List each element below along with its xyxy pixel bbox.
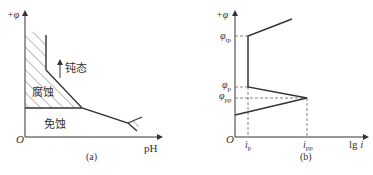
y-tick-phi-tp: φtp	[220, 30, 231, 44]
boundary-line-a	[46, 35, 137, 131]
panel-b: +φ O φtp φp φpp ip ipp lg i (b)	[216, 9, 366, 163]
corrosion-label: 腐蚀	[32, 85, 54, 99]
polarization-curve	[235, 19, 307, 115]
y-axis-label-b: +φ	[216, 9, 229, 20]
passivation-label: 钝态	[65, 61, 87, 75]
x-axis-label-a: pH	[144, 142, 158, 154]
caption-a: (a)	[86, 151, 97, 163]
origin-label-a: O	[16, 133, 24, 145]
immunity-label: 免蚀	[44, 117, 66, 131]
dashed-guides	[235, 36, 307, 137]
diagram-canvas: +φ O pH (a) 钝态 腐蚀 免蚀 +φ O φtp φp φpp ip …	[0, 0, 373, 175]
caption-b: (b)	[300, 151, 312, 163]
panel-a: +φ O pH (a) 钝态 腐蚀 免蚀	[7, 9, 160, 163]
x-tick-i-p: ip	[245, 139, 252, 152]
y-axis-label-a: +φ	[7, 9, 20, 20]
x-axis-label-b: lg i	[349, 138, 363, 150]
origin-label-b: O	[226, 133, 234, 145]
